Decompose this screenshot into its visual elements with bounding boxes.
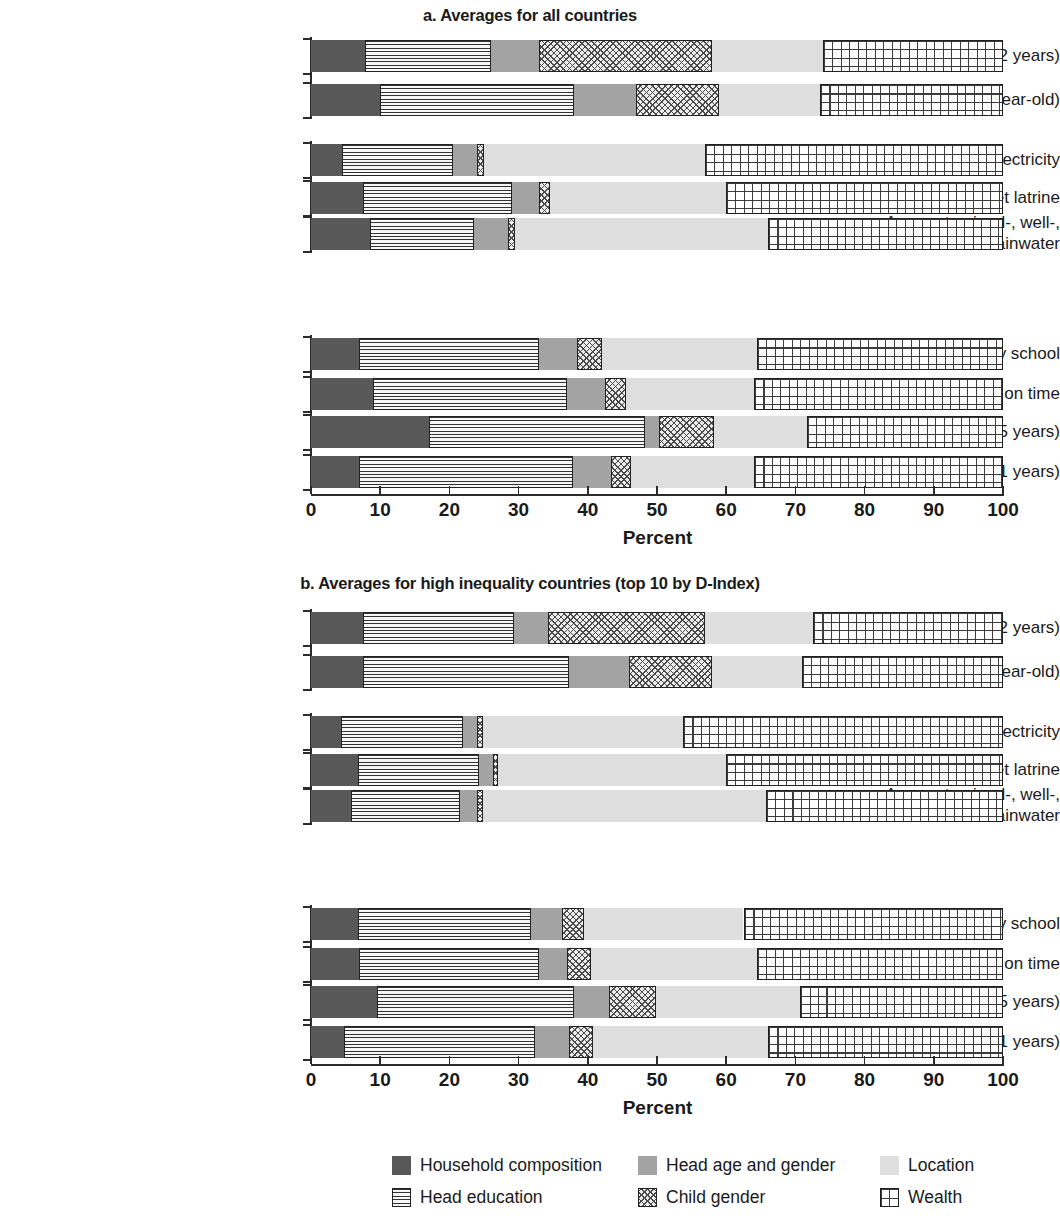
bar-segment-wealth [823, 40, 1003, 72]
y-axis-tick [303, 411, 312, 413]
bar-segment-headage [474, 218, 509, 250]
chart-b-plot-area: No stunting (0–2 years)Full immunization… [0, 602, 1060, 1072]
bar-segment-headage [645, 416, 659, 448]
bar-segment-location [656, 986, 801, 1018]
x-axis-tick-label: 100 [987, 1069, 1019, 1091]
legend-item-headedu[interactable]: Head education [392, 1187, 543, 1208]
bar-segment-headage [491, 40, 539, 72]
stacked-bar [311, 144, 1003, 176]
stacked-bar [311, 986, 1003, 1018]
x-axis-tick [518, 1056, 520, 1064]
bar-segment-wealth [768, 218, 1003, 250]
bar-segment-location [631, 456, 753, 488]
bar-segment-location [626, 378, 754, 410]
x-axis-tick [795, 486, 797, 494]
x-axis-tick-label: 0 [306, 499, 317, 521]
x-axis-tick [449, 486, 451, 494]
bar-segment-headage [531, 908, 562, 940]
bar-segment-headedu [359, 456, 572, 488]
bar-segment-wealth [766, 790, 1003, 822]
y-axis-tick [303, 73, 312, 75]
bar-segment-headage [574, 986, 609, 1018]
bar-segment-headedu [380, 84, 574, 116]
chart-b-title: b. Averages for high inequality countrie… [0, 574, 1060, 593]
x-axis-tick-label: 50 [646, 1069, 667, 1091]
legend-label: Location [908, 1155, 974, 1176]
legend-swatch-icon [638, 1188, 657, 1207]
x-axis-tick-label: 80 [854, 1069, 875, 1091]
bar-segment-headedu [359, 948, 539, 980]
bar-segment-headedu [363, 182, 512, 214]
bar-segment-headedu [358, 908, 531, 940]
x-axis-tick-label: 70 [785, 1069, 806, 1091]
x-axis-tick-label: 100 [987, 499, 1019, 521]
bar-segment-childgender [577, 338, 601, 370]
bar-segment-childgender [659, 416, 714, 448]
bar-segment-location [602, 338, 758, 370]
legend-item-household[interactable]: Household composition [392, 1155, 602, 1176]
bar-segment-wealth [757, 948, 1003, 980]
chart-a-title: a. Averages for all countries [0, 6, 1060, 25]
legend-item-location[interactable]: Location [880, 1155, 974, 1176]
stacked-bar [311, 182, 1003, 214]
stacked-bar [311, 716, 1003, 748]
x-axis-tick [587, 1056, 589, 1064]
x-axis-title: Percent [311, 527, 1004, 549]
chart-a-plot-area: No stunting (0–2 years)Full immunization… [0, 34, 1060, 494]
y-axis-tick [303, 689, 312, 691]
legend-item-wealth[interactable]: Wealth [880, 1187, 962, 1208]
stacked-bar [311, 218, 1003, 250]
y-axis-tick [303, 941, 312, 943]
x-axis-tick-label: 10 [370, 499, 391, 521]
bar-segment-wealth [757, 338, 1003, 370]
x-axis-tick [864, 486, 866, 494]
bar-segment-household [311, 656, 363, 688]
x-axis-tick-label: 90 [923, 1069, 944, 1091]
legend-label: Head age and gender [666, 1155, 835, 1176]
bar-segment-childgender [567, 948, 591, 980]
bar-segment-headage [569, 656, 629, 688]
stacked-bar [311, 656, 1003, 688]
x-axis-tick [725, 1056, 727, 1064]
bar-segment-location [714, 416, 807, 448]
x-axis-tick-label: 40 [577, 1069, 598, 1091]
bar-segment-location [483, 716, 683, 748]
bar-segment-childgender [548, 612, 705, 644]
bar-segment-headage [539, 948, 567, 980]
bar-segment-location [498, 754, 726, 786]
stacked-bar [311, 338, 1003, 370]
bar-segment-headage [573, 456, 611, 488]
x-axis-tick-label: 60 [716, 1069, 737, 1091]
legend-item-headage[interactable]: Head age and gender [638, 1155, 835, 1176]
bar-segment-household [311, 790, 351, 822]
bar-segment-childgender [508, 218, 515, 250]
bar-segment-wealth [754, 456, 1003, 488]
x-axis-tick-label: 10 [370, 1069, 391, 1091]
legend-label: Household composition [420, 1155, 602, 1176]
bar-segment-childgender [539, 40, 712, 72]
bar-segment-location [483, 790, 767, 822]
y-axis-tick [303, 251, 312, 253]
x-axis-tick-label: 20 [439, 1069, 460, 1091]
bar-segment-childgender [609, 986, 656, 1018]
bar-segment-headage [567, 378, 605, 410]
bar-segment-location [584, 908, 743, 940]
legend-item-childgender[interactable]: Child gender [638, 1187, 765, 1208]
y-axis-tick [303, 449, 312, 451]
bar-segment-headedu [363, 656, 569, 688]
bar-segment-childgender [611, 456, 632, 488]
bar-segment-household [311, 218, 370, 250]
x-axis-tick-label: 90 [923, 499, 944, 521]
y-axis-tick [303, 1019, 312, 1021]
bar-segment-household [311, 754, 358, 786]
bar-segment-headage [512, 182, 540, 214]
legend-label: Head education [420, 1187, 543, 1208]
x-axis-tick-label: 30 [508, 1069, 529, 1091]
y-axis-tick [303, 645, 312, 647]
bar-segment-location [515, 218, 768, 250]
bar-segment-headedu [373, 378, 567, 410]
stacked-bar [311, 612, 1003, 644]
bar-segment-childgender [539, 182, 549, 214]
bar-segment-household [311, 378, 373, 410]
stacked-bar [311, 416, 1003, 448]
